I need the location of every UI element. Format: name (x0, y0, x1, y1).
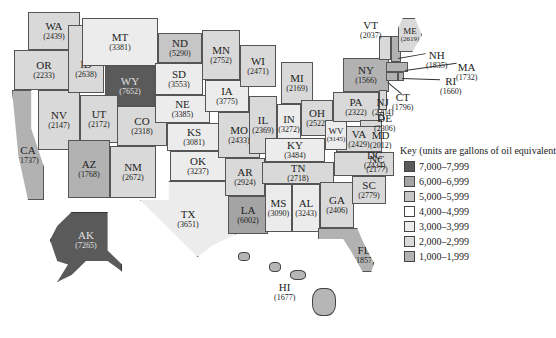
state-abbr: IL (258, 115, 268, 127)
state-abbr: SC (362, 180, 375, 192)
state-value: (2924) (234, 179, 255, 187)
hawaii-island-oahu (269, 262, 281, 272)
state-abbr: RI (440, 76, 461, 88)
state-sd: SD (3553) (155, 63, 203, 95)
state-value: (2638) (75, 71, 96, 79)
state-abbr: PA (349, 97, 362, 109)
state-abbr: NV (51, 110, 67, 122)
legend-item: 2,000–2,999 (404, 234, 556, 249)
state-abbr: FL (358, 245, 371, 257)
state-abbr: HI (274, 282, 295, 294)
label-vt: VT (2037) (360, 20, 381, 40)
state-abbr: AR (237, 167, 252, 179)
hawaii-island-big (312, 288, 336, 316)
state-abbr: MA (456, 62, 477, 74)
state-value: (5290) (169, 50, 190, 58)
state-abbr: AK (78, 230, 94, 242)
state-value: (2439) (43, 33, 64, 41)
state-ar: AR (2924) (225, 158, 265, 196)
legend-item: 3,000–3,999 (404, 219, 556, 234)
state-ct (386, 72, 398, 81)
state-value: (3775) (216, 98, 237, 106)
state-abbr: IN (283, 114, 295, 126)
legend-label: 4,000–4,999 (419, 206, 469, 217)
state-abbr: NY (358, 65, 374, 77)
state-abbr: WI (251, 56, 265, 68)
state-value: (2037) (360, 32, 381, 40)
state-abbr: OK (190, 156, 206, 168)
state-abbr: VT (360, 20, 381, 32)
legend-swatch (404, 176, 415, 187)
legend-swatch (404, 221, 415, 232)
state-fl: FL (1857) (318, 228, 374, 272)
state-abbr: CA (20, 145, 35, 157)
state-mi: MI (2169) (281, 62, 313, 104)
state-or: OR (2233) (14, 50, 74, 90)
state-la: LA (6002) (228, 196, 268, 234)
label-dc: DC (2434) (364, 150, 385, 170)
state-value: (6002) (237, 217, 258, 225)
state-value: (3385) (172, 111, 193, 119)
state-wi: WI (2471) (240, 45, 276, 87)
legend-swatch (404, 191, 415, 202)
state-abbr: ND (172, 38, 188, 50)
legend-label: 6,000–6,999 (419, 176, 469, 187)
state-abbr: IA (221, 86, 233, 98)
state-abbr: DE (374, 113, 395, 125)
state-abbr: MT (112, 32, 129, 44)
state-value: (1796) (392, 104, 413, 112)
state-tn: TN (2718) (262, 162, 334, 184)
state-value: (2779) (358, 192, 379, 200)
state-nm: NM (2672) (110, 146, 156, 198)
state-abbr: NH (426, 50, 447, 62)
state-ks: KS (3081) (167, 123, 221, 151)
state-value: (3272) (278, 126, 299, 134)
state-value: (3081) (183, 139, 204, 147)
state-ri (398, 72, 404, 81)
legend-item: 7,000–7,999 (404, 159, 556, 174)
state-ms: MS (3090) (265, 184, 292, 232)
leader-line-ri (402, 78, 440, 80)
state-value: (3243) (295, 210, 316, 218)
state-value: (3381) (109, 44, 130, 52)
state-abbr: MS (271, 198, 287, 210)
state-abbr: DC (364, 150, 385, 162)
state-abbr: SD (172, 69, 186, 81)
legend-item: 5,000–5,999 (404, 189, 556, 204)
state-value: (2619) (401, 36, 420, 43)
leader-line-nh (398, 53, 426, 59)
state-abbr: GA (329, 195, 345, 207)
state-abbr: KS (187, 127, 201, 139)
state-ky: KY (3484) (265, 138, 325, 162)
state-abbr: AZ (82, 159, 97, 171)
state-abbr: KY (287, 140, 303, 152)
state-value: (3145) (327, 136, 346, 143)
state-value: (7652) (119, 88, 140, 96)
hawaii-island-maui (290, 270, 306, 280)
label-md: MD (2012) (370, 130, 391, 150)
state-abbr: MN (212, 45, 230, 57)
legend-label: 3,000–3,999 (419, 221, 469, 232)
state-mt: MT (3381) (82, 18, 158, 66)
state-sc: SC (2779) (352, 176, 386, 204)
state-abbr: OH (309, 108, 325, 120)
state-value: (2369) (252, 127, 273, 135)
state-value: (2718) (287, 175, 308, 183)
legend-label: 5,000–5,999 (419, 191, 469, 202)
legend-swatch (404, 161, 415, 172)
legend-swatch (404, 251, 415, 262)
state-ne: NE (3385) (155, 95, 210, 123)
state-value: (2434) (364, 162, 385, 170)
state-value: (1857) (353, 257, 374, 265)
state-abbr: NJ (372, 97, 393, 109)
legend-item: 1,000–1,999 (404, 249, 556, 264)
state-value: (2169) (286, 85, 307, 93)
state-me: ME (2619) (398, 18, 422, 52)
state-value: (1768) (78, 171, 99, 179)
label-hi: HI (1677) (274, 282, 295, 302)
legend-swatch (404, 206, 415, 217)
state-abbr: UT (92, 109, 107, 121)
legend-label: 7,000–7,999 (419, 161, 469, 172)
state-abbr: WY (121, 76, 139, 88)
state-ak: AK (7265) (50, 212, 122, 282)
